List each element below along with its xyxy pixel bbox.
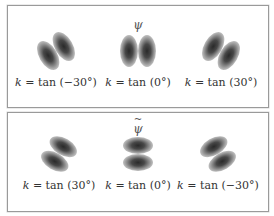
wavefunction-blob — [118, 33, 158, 69]
lobe-group — [118, 33, 158, 69]
k-label: k = tan (0°) — [96, 76, 180, 89]
k-label: k = tan (30°) — [179, 76, 263, 89]
wavefunction-item: k = tan (30°) — [179, 33, 263, 89]
k-label: k = tan (−30°) — [176, 179, 260, 192]
wavefunction-blob — [36, 33, 76, 69]
k-label: k = tan (0°) — [96, 179, 180, 192]
lobe-group — [118, 136, 158, 172]
wavefunction-blob — [198, 136, 238, 172]
wavefunction-blob — [201, 33, 241, 69]
lobe — [123, 154, 153, 171]
wavefunction-blob — [118, 136, 158, 172]
psi-panel: ψ k = tan (−30°) k = tan (0°) k = tan (3… — [7, 5, 269, 108]
lobe-group — [30, 25, 83, 76]
wavefunction-item: k = tan (30°) — [17, 136, 101, 192]
wavefunction-item: k = tan (−30°) — [14, 33, 98, 89]
wavefunction-item: k = tan (0°) — [96, 33, 180, 89]
psi-tilde-panel: ψ k = tan (30°) k = tan (0°) k = tan (−3… — [7, 112, 269, 212]
lobe — [120, 35, 138, 67]
wavefunction-item: k = tan (0°) — [96, 136, 180, 192]
wavefunction-item: k = tan (−30°) — [176, 136, 260, 192]
panel-title: ψ — [8, 18, 268, 32]
k-label: k = tan (30°) — [17, 179, 101, 192]
lobe — [138, 35, 156, 67]
wavefunction-blob — [39, 136, 79, 172]
lobe-group — [192, 128, 245, 179]
lobe — [123, 137, 153, 154]
lobe-group — [33, 128, 86, 179]
k-label: k = tan (−30°) — [14, 76, 98, 89]
lobe-group — [195, 25, 248, 76]
